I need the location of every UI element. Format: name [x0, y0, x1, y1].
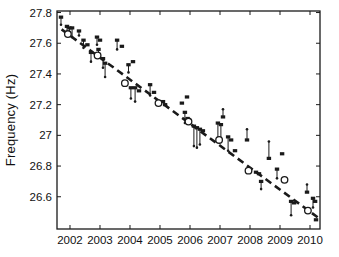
data-point [314, 218, 318, 221]
data-point [81, 39, 85, 42]
data-point [96, 48, 100, 51]
data-point [137, 89, 141, 92]
data-point [180, 102, 184, 105]
x-tick-label: 2006 [177, 234, 203, 246]
y-tick-label: 27.6 [30, 37, 52, 49]
x-tick-label: 2010 [297, 234, 323, 246]
frequency-vs-year-chart: 20022003200420052006200720082009201026.6… [0, 0, 339, 257]
data-point [59, 16, 63, 19]
error-bar-end-dot [102, 67, 105, 70]
x-tick-label: 2008 [237, 234, 263, 246]
error-bar-end-dot [227, 149, 230, 152]
y-tick-label: 27.8 [30, 7, 52, 19]
y-tick-label: 26.6 [30, 191, 52, 203]
data-point [219, 123, 223, 126]
data-point [259, 180, 263, 183]
y-tick-label: 26.8 [30, 160, 52, 172]
data-point [98, 39, 102, 42]
annual-mean-marker [245, 167, 252, 174]
error-bar-end-dot [149, 94, 152, 97]
error-bar-end-dot [276, 177, 279, 180]
data-point [163, 103, 167, 106]
data-point [226, 135, 230, 138]
annual-mean-marker [122, 80, 129, 87]
annual-mean-marker [305, 207, 312, 214]
data-point [129, 86, 133, 89]
annual-mean-marker [65, 31, 72, 38]
error-bar-end-dot [312, 206, 315, 209]
error-bar-end-dot [290, 214, 293, 217]
annual-mean-marker [216, 137, 223, 144]
data-point [280, 152, 284, 155]
error-bar-end-dot [246, 128, 249, 131]
data-point [95, 35, 99, 38]
annual-mean-marker [94, 52, 101, 59]
data-point [77, 29, 81, 32]
data-point [131, 60, 135, 63]
x-tick-label: 2002 [57, 234, 83, 246]
data-point [185, 95, 189, 98]
error-bar-end-dot [199, 143, 202, 146]
y-tick-label: 27 [39, 129, 52, 141]
annual-mean-marker [185, 118, 192, 125]
data-point [313, 200, 317, 203]
x-tick-label: 2007 [207, 234, 233, 246]
x-tick-label: 2009 [267, 234, 293, 246]
error-bar-end-dot [196, 146, 199, 149]
annual-mean-marker [281, 177, 288, 184]
data-point [133, 86, 137, 89]
data-point [267, 157, 271, 160]
error-bar-end-dot [134, 100, 137, 103]
error-bar-end-dot [60, 24, 63, 27]
error-bar-end-dot [96, 43, 99, 46]
data-point [201, 129, 205, 132]
data-point [148, 83, 152, 86]
error-bar-end-dot [306, 183, 309, 186]
data-point [70, 26, 74, 29]
data-point [257, 172, 261, 175]
error-bar-end-dot [222, 108, 225, 111]
data-point [245, 138, 249, 141]
data-point [120, 45, 124, 48]
data-point [305, 191, 309, 194]
data-point [103, 62, 107, 65]
error-bar-end-dot [193, 145, 196, 148]
data-point [115, 39, 119, 42]
x-tick-label: 2004 [117, 234, 143, 246]
error-bar-end-dot [116, 48, 119, 51]
error-bar-end-dot [268, 140, 271, 143]
data-point [233, 149, 237, 152]
data-point [126, 63, 130, 66]
data-point [101, 57, 105, 60]
data-point [311, 197, 315, 200]
data-point [275, 168, 279, 171]
data-point [89, 51, 93, 54]
y-tick-label: 27.2 [30, 99, 52, 111]
error-bar-end-dot [78, 34, 81, 37]
data-point [229, 138, 233, 141]
error-bar-end-dot [130, 97, 133, 100]
annual-mean-marker [155, 100, 162, 107]
y-axis-label: Frequency (Hz) [3, 74, 18, 166]
error-bar-end-dot [104, 76, 107, 79]
frequency-vs-year-figure: Frequency (Hz) 2002200320042005200620072… [0, 0, 339, 257]
error-bar-end-dot [82, 47, 85, 50]
data-point [292, 201, 296, 204]
error-bar-end-dot [90, 60, 93, 63]
error-bar-end-dot [260, 188, 263, 191]
data-point [221, 115, 225, 118]
x-tick-label: 2003 [87, 234, 113, 246]
data-point [85, 43, 89, 46]
x-tick-label: 2005 [147, 234, 173, 246]
data-point [152, 91, 156, 94]
error-bar-end-dot [127, 71, 130, 74]
data-point [183, 111, 187, 114]
y-tick-label: 27.4 [30, 68, 53, 80]
